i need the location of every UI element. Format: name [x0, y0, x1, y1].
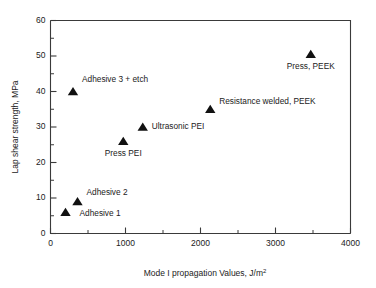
scatter-plot-svg: 0102030405060 01000200030004000 Adhesive…: [0, 0, 376, 288]
figure-background: [0, 0, 376, 288]
data-point-label: Adhesive 2: [87, 187, 128, 197]
y-tick-label: 0: [41, 228, 46, 238]
y-tick-label: 50: [36, 50, 46, 60]
x-tick-label: 4000: [341, 238, 360, 248]
y-tick-label: 10: [36, 192, 46, 202]
y-tick-label: 40: [36, 86, 46, 96]
data-point-label: Resistance welded, PEEK: [219, 96, 316, 106]
data-point-label: Press PEI: [105, 148, 142, 158]
data-point-label: Adhesive 3 + etch: [82, 74, 149, 84]
x-tick-label: 2000: [191, 238, 210, 248]
data-point-label: Adhesive 1: [80, 208, 121, 218]
x-tick-label: 3000: [266, 238, 285, 248]
chart-figure: 0102030405060 01000200030004000 Adhesive…: [0, 0, 376, 288]
y-tick-label: 30: [36, 121, 46, 131]
y-tick-label: 20: [36, 157, 46, 167]
y-tick-label: 60: [36, 15, 46, 25]
x-axis-title: Mode I propagation Values, J/m2: [144, 268, 267, 278]
x-tick-label: 1000: [116, 238, 135, 248]
data-point-label: Ultrasonic PEI: [152, 121, 205, 131]
x-tick-label: 0: [48, 238, 53, 248]
y-axis-title: Lap shear strength, MPa: [10, 80, 20, 173]
data-point-label: Press, PEEK: [287, 61, 335, 71]
